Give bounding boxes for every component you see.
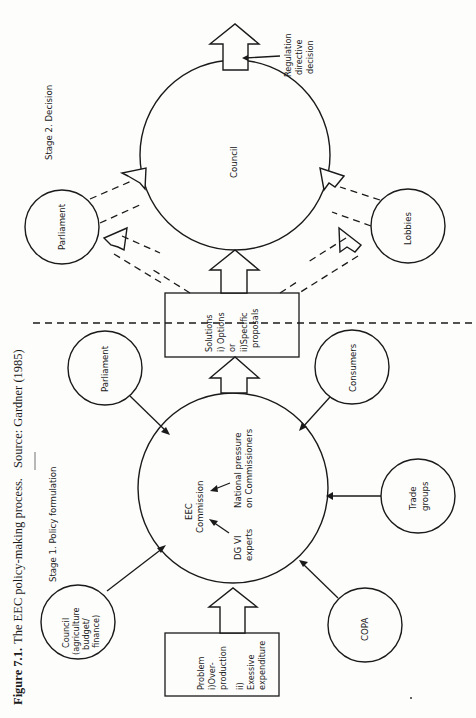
problem-line-5: Exessive [246,655,256,691]
problem-line-3: production [218,646,228,690]
problem-to-commission-arrow [209,588,257,633]
parliament-dash-2 [100,204,142,223]
experts-label-1: DG VI [233,536,243,560]
council-stage2-label: Council [229,146,239,178]
solutions-to-council-arrow [210,250,259,293]
parliament-arrowhead-bottom [104,228,127,250]
solutions-line-1: Solutions [204,314,214,352]
parliament-arrowhead-top [122,168,146,189]
svg-text:Figure 7.1.The EEC policy-maki: Figure 7.1.The EEC policy-making process… [11,349,25,705]
output-line-2: directive [294,39,304,75]
stage1-label: Stage 1. Policy formulation [48,466,58,582]
pressure-arrowhead [210,485,218,492]
caption-label: Figure 7.1. [11,648,25,705]
solutions-dash-left [150,268,190,293]
experts-label-2: experts [244,528,254,561]
copa-to-commission [302,563,338,598]
consumers-to-commission [302,397,330,428]
scan-speck [410,697,412,699]
trade-groups-circle [381,459,455,533]
problem-line-1: Problem [196,657,206,690]
parliament-stage2-label: Parliament [57,203,67,250]
council-to-commission [107,548,163,591]
problem-labels: Problem i)Over- production ii) Exessive … [196,641,267,690]
parliament-dash-1 [90,180,134,199]
parliament-dash-4 [114,254,165,285]
trade-groups-line-1: Trade [408,486,418,511]
commission-label-2: Commission [195,481,205,533]
solutions-line-5: proposals [250,309,260,348]
parliament-to-council-arrows [90,168,165,285]
solutions-line-3: or [227,343,237,352]
parliament-dash-3 [122,236,160,253]
problem-line-4: ii) [235,682,245,690]
council-stage1-line-1: Council [61,618,71,648]
output-pointer [245,56,280,58]
output-labels: Regulation directive decision [283,33,315,77]
problem-line-6: expenditure [257,641,267,690]
solutions-labels: Solutions i) Options or ii)Specific prop… [204,309,260,352]
copa-arrowhead [299,560,308,567]
lobbies-label: Lobbies [403,212,413,245]
output-line-1: Regulation [283,33,293,77]
consumers-label: Consumers [348,343,358,392]
trade-groups-labels: Trade groups [408,481,430,511]
lobbies-to-council-arrows [299,168,380,293]
solutions-line-2: i) Options [216,312,226,352]
eec-policy-diagram: Figure 7.1.The EEC policy-making process… [0,0,476,718]
solutions-line-4: ii)Specific [239,312,249,352]
problem-line-2: i)Over- [207,662,217,690]
caption-source: Source: Gardner (1985) [11,349,25,468]
parliament-to-commission [130,396,167,432]
pressure-label-2: on Commissioners [244,428,254,508]
output-line-3: decision [305,40,315,74]
lobbies-dash-1 [340,187,380,200]
caption-text: The EEC policy-making process. [11,478,25,644]
parliament-stage1-label: Parliament [100,345,110,392]
figure-caption: Figure 7.1.The EEC policy-making process… [11,349,25,705]
commission-to-solutions-arrow [210,357,259,393]
council-output-arrow [210,24,259,70]
commission-label-1: EEC [184,503,194,520]
commission-labels: EEC Commission DG VI experts National pr… [184,428,254,561]
trade-groups-line-2: groups [420,481,430,511]
council-stage1-line-3: budget/ [81,618,91,650]
council-stage1-line-2: (agriculture [71,607,81,655]
pressure-label-1: National pressure [233,432,243,508]
solutions-dash-right [280,280,300,293]
lobbies-dash-2 [332,212,371,226]
council-stage1-line-4: finance) [91,615,101,648]
lobbies-dash-4 [299,256,358,293]
stage2-label: Stage 2. Decision [44,85,54,160]
copa-label: COPA [360,618,370,641]
figure-page: Figure 7.1.The EEC policy-making process… [0,0,476,718]
council-stage1-labels: Council (agriculture budget/ finance) [61,607,101,655]
